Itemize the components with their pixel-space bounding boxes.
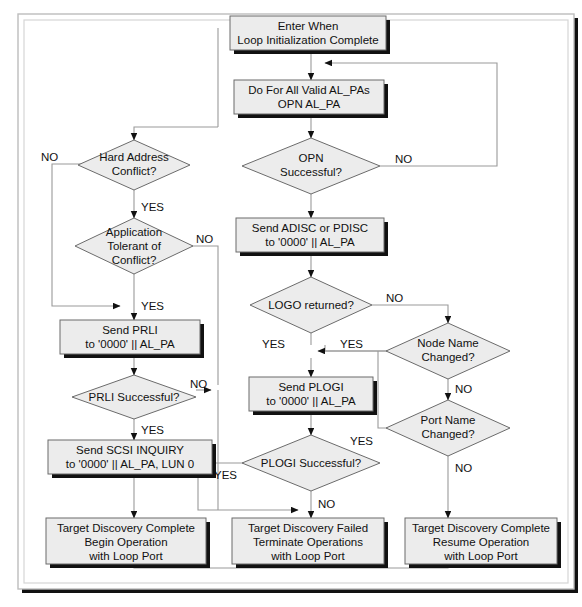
edge-label-plogi-no: NO — [318, 498, 335, 510]
node-endfail-line-1: Terminate Operations — [253, 536, 363, 548]
node-endbegin: Target Discovery Complete Begin Operatio… — [46, 518, 210, 568]
node-sendadisc-line-0: Send ADISC or PDISC — [252, 222, 368, 234]
node-enter: Enter When Loop Initialization Complete — [230, 16, 390, 54]
flowchart-canvas: Enter When Loop Initialization Complete … — [0, 0, 582, 607]
node-sendscsi-line-0: Send SCSI INQUIRY — [76, 444, 184, 456]
edge-label-logo-no: NO — [386, 292, 403, 304]
node-portname-line-1: Changed? — [421, 428, 474, 440]
node-prli-line-0: PRLI Successful? — [89, 391, 180, 403]
node-endresume-line-2: with Loop Port — [443, 550, 518, 562]
edge-label-logo-yes: YES — [262, 338, 285, 350]
node-endbegin-line-1: Begin Operation — [84, 536, 167, 548]
edge-label-apptol-yes: YES — [141, 300, 164, 312]
edge-label-prli-no: NO — [190, 378, 207, 390]
node-endbegin-line-0: Target Discovery Complete — [57, 522, 195, 534]
edge-label-portname-no: NO — [455, 462, 472, 474]
node-portname-line-0: Port Name — [421, 414, 476, 426]
node-sendscsi: Send SCSI INQUIRY to '0000' || AL_PA, LU… — [48, 440, 216, 478]
node-endresume-line-1: Resume Operation — [433, 536, 530, 548]
node-endfail-line-0: Target Discovery Failed — [248, 522, 368, 534]
node-sendplogi-line-1: to '0000' || AL_PA — [266, 395, 356, 407]
node-opn-line-1: Successful? — [280, 166, 342, 178]
node-sendprli-line-0: Send PRLI — [102, 324, 158, 336]
node-sendscsi-line-1: to '0000' || AL_PA, LUN 0 — [66, 458, 194, 470]
node-sendplogi-line-0: Send PLOGI — [278, 381, 343, 393]
node-sendadisc: Send ADISC or PDISC to '0000' || AL_PA — [236, 218, 388, 256]
node-endfail-line-2: with Loop Port — [270, 550, 345, 562]
node-sendadisc-line-1: to '0000' || AL_PA — [265, 236, 355, 248]
node-enter-line-1: Loop Initialization Complete — [237, 34, 378, 46]
node-endfail: Target Discovery Failed Terminate Operat… — [232, 518, 388, 568]
node-apptol-line-1: Tolerant of — [107, 240, 162, 252]
node-nodename-line-1: Changed? — [421, 351, 474, 363]
node-endbegin-line-2: with Loop Port — [88, 550, 163, 562]
node-dofor: Do For All Valid AL_PAs OPN AL_PA — [234, 80, 388, 118]
node-plogi-line-0: PLOGI Successful? — [261, 457, 361, 469]
node-apptol-line-0: Application — [106, 226, 162, 238]
node-opn-line-0: OPN — [299, 152, 324, 164]
node-dofor-line-1: OPN AL_PA — [278, 98, 341, 110]
node-nodename-line-0: Node Name — [417, 337, 478, 349]
edge-label-hardaddr-no: NO — [41, 151, 58, 163]
flowchart-svg: Enter When Loop Initialization Complete … — [0, 0, 582, 607]
node-endresume-line-0: Target Discovery Complete — [412, 522, 550, 534]
node-endresume: Target Discovery Complete Resume Operati… — [405, 518, 561, 568]
node-sendprli: Send PRLI to '0000' || AL_PA — [60, 320, 204, 358]
node-sendprli-line-1: to '0000' || AL_PA — [85, 338, 175, 350]
edge-label-prli-yes: YES — [141, 424, 164, 436]
edge-label-nodename-yes: YES — [340, 338, 363, 350]
edge-label-opn-no: NO — [395, 153, 412, 165]
edge-label-apptol-no: NO — [196, 233, 213, 245]
node-sendplogi: Send PLOGI to '0000' || AL_PA — [249, 377, 377, 415]
node-enter-line-0: Enter When — [278, 20, 339, 32]
edge-label-plogi-yes: YES — [214, 469, 237, 481]
edge-label-nodename-no: NO — [455, 383, 472, 395]
node-logo-line-0: LOGO returned? — [268, 299, 354, 311]
node-dofor-line-0: Do For All Valid AL_PAs — [248, 84, 370, 96]
edge-label-hardaddr-yes: YES — [141, 201, 164, 213]
node-hardaddr-line-0: Hard Address — [99, 151, 169, 163]
node-apptol-line-2: Conflict? — [112, 254, 157, 266]
node-hardaddr-line-1: Conflict? — [112, 165, 157, 177]
edge-label-portname-yes: YES — [350, 435, 373, 447]
